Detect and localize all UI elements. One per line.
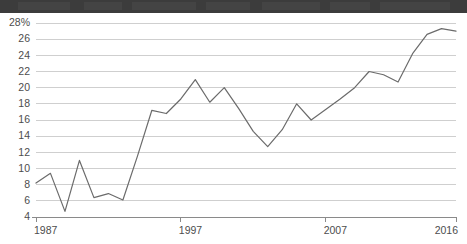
y-tick-label: 10 <box>18 162 30 174</box>
x-axis-labels: 1987199720072016 <box>34 224 458 236</box>
y-tick-label: 6 <box>24 194 30 206</box>
y-tick-label: 20 <box>18 81 30 93</box>
y-tick-label: 8 <box>24 178 30 190</box>
y-tick-label: 12 <box>18 146 30 158</box>
cropped-title-strip <box>0 0 467 13</box>
y-tick-label: 4 <box>24 210 30 222</box>
y-tick-label: 24 <box>18 49 30 61</box>
y-tick-label: 28% <box>9 16 30 28</box>
gridlines <box>36 23 456 201</box>
chart-page: 28%262422201816141210864 198719972007201… <box>0 0 467 244</box>
y-tick-label: 16 <box>18 113 30 125</box>
x-tick-label: 1997 <box>179 224 203 236</box>
y-tick-label: 18 <box>18 97 30 109</box>
x-tick-label: 2007 <box>324 224 348 236</box>
x-tick-label: 1987 <box>34 224 58 236</box>
y-axis-labels: 28%262422201816141210864 <box>9 16 30 222</box>
chart-svg: 28%262422201816141210864 198719972007201… <box>0 13 467 244</box>
y-tick-label: 26 <box>18 32 30 44</box>
line-chart: 28%262422201816141210864 198719972007201… <box>0 13 467 244</box>
y-tick-label: 22 <box>18 65 30 77</box>
y-tick-label: 14 <box>18 129 30 141</box>
x-tick-label: 2016 <box>435 224 459 236</box>
x-axis <box>32 217 456 222</box>
